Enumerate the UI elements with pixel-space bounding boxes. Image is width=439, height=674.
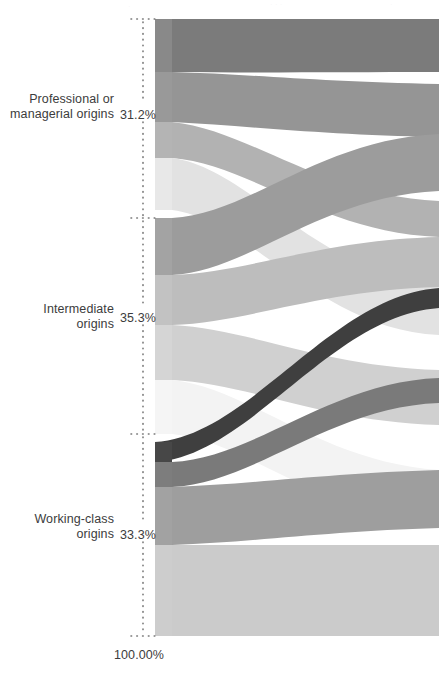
node-professional-seg4 (155, 158, 172, 210)
flow-prof-2 (172, 72, 439, 137)
origin-label-professional: Professional or managerial origins (8, 92, 114, 122)
origin-percent-working: 33.3% (120, 528, 156, 543)
node-working-seg4 (155, 545, 172, 636)
origin-node-bars (155, 19, 172, 636)
node-working-seg3 (155, 487, 172, 545)
flow-work-4 (172, 545, 439, 636)
flow-prof-1 (172, 19, 439, 72)
axis-total-label: 100.00% (114, 648, 164, 663)
node-working-seg2 (155, 462, 172, 487)
node-intermediate-seg2 (155, 275, 172, 325)
origin-percent-intermediate: 35.3% (120, 311, 156, 326)
node-intermediate-seg4 (155, 380, 172, 434)
flow-ribbons (155, 19, 439, 636)
node-working-seg1 (155, 442, 172, 462)
sankey-figure: · · · · · (0, 0, 439, 674)
node-intermediate-seg1 (155, 218, 172, 275)
node-professional-seg1 (155, 19, 172, 72)
flow-work-3 (172, 470, 439, 545)
node-professional-seg2 (155, 72, 172, 122)
origin-percent-professional: 31.2% (120, 108, 156, 123)
origin-label-working: Working-class origins (8, 512, 114, 542)
node-intermediate-seg3 (155, 325, 172, 380)
origin-label-intermediate: Intermediate origins (8, 302, 114, 332)
node-professional-seg3 (155, 122, 172, 158)
